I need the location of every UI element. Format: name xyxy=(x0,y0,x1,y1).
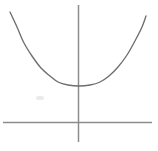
figure-canvas xyxy=(0,0,158,151)
parabola-figure xyxy=(0,0,158,151)
scan-smudge xyxy=(36,96,44,100)
